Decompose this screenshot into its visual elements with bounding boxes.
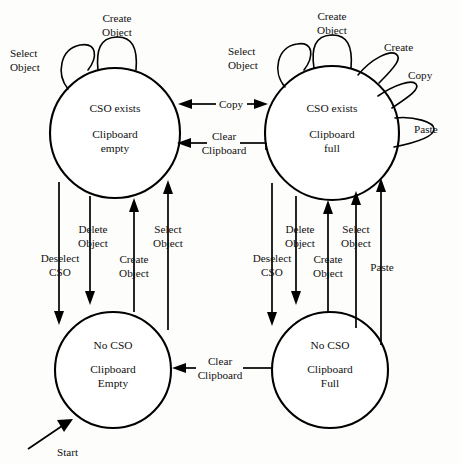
state-label-line2: Clipboard <box>309 128 355 140</box>
self-loop-label-line2: Object <box>10 61 41 73</box>
transition-label-line2: Object <box>119 267 150 279</box>
arrow-head-start <box>57 419 73 432</box>
state-label-line2: Clipboard <box>307 363 353 375</box>
state-node-cso-exists-clipboard-empty[interactable]: CSO exists Clipboard empty <box>50 68 180 198</box>
state-label-line3: Empty <box>98 377 129 389</box>
transition-label-line1: Copy <box>219 98 244 110</box>
self-loop-label-line1: Create <box>384 41 413 53</box>
transition-clear-clipboard-top[interactable]: Clear Clipboard <box>177 130 266 156</box>
self-loop-label-line2: Object <box>228 59 259 71</box>
arrow-head-down <box>85 291 95 305</box>
transition-label-line2: Object <box>153 237 184 249</box>
transition-label-line1: Clear <box>208 355 233 367</box>
state-node-no-cso-clipboard-full[interactable]: No CSO Clipboard Full <box>272 312 388 428</box>
state-label-line1: CSO exists <box>90 102 142 114</box>
arrow-head-up <box>129 198 139 212</box>
state-diagram-canvas: CSO exists Clipboard empty CSO exists Cl… <box>0 0 460 464</box>
transition-left-deselect-cso[interactable]: Deselect CSO <box>41 182 80 325</box>
state-label-line2: Clipboard <box>92 128 138 140</box>
transition-label-line1: Select <box>342 223 370 235</box>
transition-left-delete-object[interactable]: Delete Object <box>78 196 109 305</box>
self-loop-tl-create-object[interactable]: Create Object <box>98 12 137 70</box>
transition-left-select-object[interactable]: Select Object <box>153 180 184 330</box>
transition-label-line1: Clear <box>212 130 237 142</box>
state-label-line1: No CSO <box>94 339 133 351</box>
transition-clear-clipboard-bottom[interactable]: Clear Clipboard <box>172 355 272 381</box>
self-loop-label-line1: Select <box>228 45 256 57</box>
state-transition-diagram: CSO exists Clipboard empty CSO exists Cl… <box>0 0 460 464</box>
self-loop-arc <box>98 37 137 70</box>
state-node-no-cso-clipboard-empty[interactable]: No CSO Clipboard Empty <box>55 312 171 428</box>
transition-label-line2: Object <box>285 237 316 249</box>
state-label-line1: No CSO <box>311 339 350 351</box>
transition-label-line1: Deselect <box>41 252 80 264</box>
state-label-line2: Clipboard <box>90 363 136 375</box>
transition-label-line2: CSO <box>261 266 283 278</box>
transition-copy-bidirectional[interactable]: Copy <box>178 98 268 110</box>
transition-label-line2: Clipboard <box>198 369 243 381</box>
state-label-line3: empty <box>101 142 130 154</box>
self-loop-tr-paste[interactable]: Paste <box>394 118 438 147</box>
transition-label-line2: Clipboard <box>202 144 247 156</box>
transition-right-paste[interactable]: Paste <box>370 178 394 345</box>
transition-label-line1: Create <box>119 253 148 265</box>
transition-label-line2: Object <box>78 237 109 249</box>
self-loop-label-line2: Object <box>317 24 348 36</box>
transition-label-line2: Object <box>341 237 372 249</box>
arrow-head-up <box>323 200 333 214</box>
state-label-line3: full <box>324 142 340 154</box>
arrow-head-left <box>178 99 192 109</box>
start-label: Start <box>57 446 79 458</box>
transition-label-line1: Create <box>313 253 342 265</box>
transition-left-create-object[interactable]: Create Object <box>119 198 150 312</box>
self-loop-label-line1: Paste <box>414 123 438 135</box>
arrow-head-left <box>172 363 186 373</box>
self-loop-label-line1: Select <box>10 47 38 59</box>
state-label-line1: CSO exists <box>307 102 359 114</box>
arrow-head-right <box>254 99 268 109</box>
transition-right-deselect-cso[interactable]: Deselect CSO <box>253 183 292 326</box>
arrow-head-down <box>54 311 64 325</box>
self-loop-label-line1: Create <box>317 10 346 22</box>
transition-label-line1: Delete <box>285 223 314 235</box>
transition-right-select-object[interactable]: Select Object <box>341 191 372 328</box>
transition-label-line2: CSO <box>49 266 71 278</box>
transition-label-line1: Deselect <box>253 252 292 264</box>
arrow-head-down <box>267 312 277 326</box>
transition-right-create-object[interactable]: Create Object <box>313 200 344 312</box>
self-loop-label-line1: Create <box>102 12 131 24</box>
self-loop-arc <box>313 35 351 68</box>
transition-right-delete-object[interactable]: Delete Object <box>285 196 316 305</box>
state-label-line3: Full <box>321 377 339 389</box>
arrow-head-up <box>163 180 173 194</box>
arrow-head-down <box>291 291 301 305</box>
transition-label-line1: Paste <box>370 261 394 273</box>
self-loop-label-line1: Copy <box>408 69 433 81</box>
self-loop-tr-create-object[interactable]: Create Object <box>313 10 351 68</box>
transition-label-line2: Object <box>313 267 344 279</box>
transition-label-line1: Select <box>154 223 182 235</box>
start-transition[interactable]: Start <box>28 419 79 458</box>
self-loop-label-line2: Object <box>102 26 133 38</box>
transition-label-line1: Delete <box>78 223 107 235</box>
